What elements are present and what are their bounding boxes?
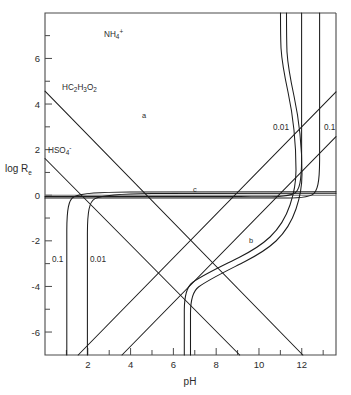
svg-text:NH4+: NH4+ [104, 28, 123, 40]
acetic-base: HC [62, 83, 74, 92]
x-axis-ticks [66, 348, 323, 355]
curve-nh4-upper [78, 92, 336, 355]
y-tick-label: 2 [35, 144, 40, 155]
annotation-text: a [142, 111, 147, 120]
nh4-label-base: NH [104, 30, 116, 39]
annotation-c: c [193, 185, 197, 194]
conc-label-upper-right-0p01: 0.01 [273, 123, 289, 132]
conc-text: 0.1 [52, 255, 64, 264]
chart-figure: NH4+ HC2H3O2 HSO4- 0.1 0.01 0.01 0.1 [0, 0, 351, 395]
hso4-base: HSO [48, 146, 66, 155]
x-tick-label: 10 [254, 359, 265, 370]
svg-text:log Re: log Re [5, 163, 32, 176]
conc-label-lower-left-0p1: 0.1 [52, 255, 64, 264]
svg-text:HSO4-: HSO4- [48, 144, 71, 156]
curve-left-0p01 [87, 193, 336, 355]
x-tick-labels: 2 4 6 8 10 12 [85, 359, 307, 370]
x-tick-label: 2 [85, 359, 90, 370]
acetic-sub3: 2 [93, 86, 97, 93]
ph-log-re-plot: NH4+ HC2H3O2 HSO4- 0.1 0.01 0.01 0.1 [0, 0, 351, 395]
plot-frame [45, 13, 336, 355]
conc-label-upper-right-0p1: 0.1 [324, 123, 336, 132]
conc-text: 0.01 [273, 123, 289, 132]
y-tick-labels: 6 4 2 0 -2 -4 -6 [32, 53, 40, 338]
curve-hso4 [45, 159, 240, 356]
species-label-hc2h3o2: HC2H3O2 [62, 83, 97, 93]
curve-center-b [184, 13, 296, 355]
curve-right-0p01 [45, 13, 302, 197]
conc-text: 0.1 [324, 123, 336, 132]
conc-label-lower-left-0p01: 0.01 [90, 255, 106, 264]
species-label-hso4: HSO4- [48, 144, 71, 156]
y-tick-label: 6 [35, 53, 40, 64]
x-tick-label: 12 [296, 359, 307, 370]
y-tick-label: 0 [35, 190, 40, 201]
conc-text: 0.01 [90, 255, 106, 264]
y-axis-title-base: log R [5, 163, 28, 174]
curve-nh4-lower [122, 137, 336, 355]
svg-text:HC2H3O2: HC2H3O2 [62, 83, 97, 93]
y-axis-title-sub: e [28, 169, 32, 176]
y-axis-ticks [45, 36, 52, 332]
x-tick-label: 6 [171, 359, 176, 370]
annotation-text: c [193, 185, 197, 194]
y-tick-label: 4 [35, 99, 40, 110]
y-tick-label: -4 [32, 281, 40, 292]
annotation-text: b [249, 236, 253, 245]
curve-hc2h3o2 [45, 91, 303, 355]
species-label-nh4: NH4+ [104, 28, 123, 40]
y-tick-label: -6 [32, 327, 40, 338]
nh4-label-sup: + [119, 28, 123, 35]
annotation-a: a [142, 111, 147, 120]
hso4-sup: - [69, 144, 71, 151]
x-axis-title: pH [184, 376, 197, 387]
y-axis-title: log Re [5, 163, 32, 176]
x-tick-label: 8 [214, 359, 219, 370]
x-tick-label: 4 [128, 359, 133, 370]
y-tick-label: -2 [32, 235, 40, 246]
x-axis-title-text: pH [184, 376, 197, 387]
annotation-b: b [249, 236, 253, 245]
curve-right-0p1 [45, 13, 320, 198]
